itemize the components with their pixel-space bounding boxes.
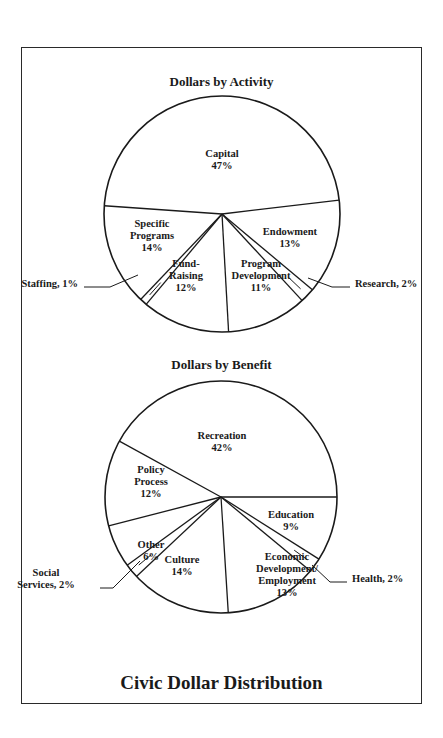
activity-pie: Capital47%Endowment13%Research, 2%Progra… — [21, 96, 417, 332]
benefit-pie: Recreation42%Education9%Health, 2%Econom… — [17, 381, 403, 613]
slice-label: Health, 2% — [352, 573, 403, 584]
pie-charts: Capital47%Endowment13%Research, 2%Progra… — [0, 0, 443, 738]
slice-label: SocialServices, 2% — [17, 567, 75, 590]
slice-label: Staffing, 1% — [21, 278, 78, 289]
slice-label: Research, 2% — [355, 278, 417, 289]
